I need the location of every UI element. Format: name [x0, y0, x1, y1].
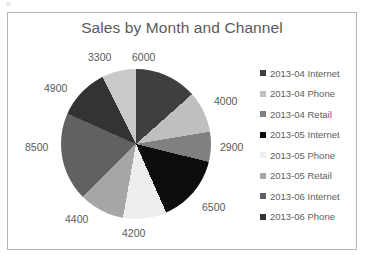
legend-item-label: 2013-05 Retail [270, 171, 332, 181]
plot-area[interactable]: 6000 4000 2900 6500 4200 4400 8500 4900 … [24, 47, 254, 243]
data-label-6500: 6500 [202, 201, 225, 213]
data-label-4400: 4400 [65, 213, 88, 225]
data-label-2900: 2900 [220, 141, 243, 153]
legend-item-label: 2013-05 Internet [270, 130, 340, 140]
legend-swatch-icon [260, 111, 266, 117]
chart-title: Sales by Month and Channel [8, 19, 356, 37]
legend-swatch-icon [260, 214, 266, 220]
data-label-8500: 8500 [25, 141, 48, 153]
legend-item-5[interactable]: 2013-05 Retail [260, 166, 360, 187]
legend-item-label: 2013-04 Phone [270, 89, 335, 99]
data-label-3300: 3300 [88, 51, 111, 63]
data-label-4200: 4200 [122, 227, 145, 239]
legend-swatch-icon [260, 152, 266, 158]
pie-chart[interactable] [61, 69, 211, 219]
legend-swatch-icon [260, 70, 266, 76]
legend-item-label: 2013-05 Phone [270, 151, 335, 161]
legend-item-2[interactable]: 2013-04 Retail [260, 104, 360, 125]
data-label-4900: 4900 [44, 82, 67, 94]
legend-item-1[interactable]: 2013-04 Phone [260, 84, 360, 105]
legend-item-label: 2013-06 Internet [270, 192, 340, 202]
legend-swatch-icon [260, 173, 266, 179]
legend-swatch-icon [260, 132, 266, 138]
chart-legend[interactable]: 2013-04 Internet2013-04 Phone2013-04 Ret… [260, 63, 360, 227]
legend-item-label: 2013-04 Internet [270, 69, 340, 79]
scan-artifact [6, 2, 11, 6]
chart-screenshot: Sales by Month and Channel 6000 4000 290… [0, 0, 366, 259]
legend-swatch-icon [260, 193, 266, 199]
legend-item-7[interactable]: 2013-06 Phone [260, 207, 360, 228]
legend-item-label: 2013-04 Retail [270, 110, 332, 120]
legend-item-6[interactable]: 2013-06 Internet [260, 186, 360, 207]
legend-item-4[interactable]: 2013-05 Phone [260, 145, 360, 166]
data-label-6000: 6000 [132, 51, 155, 63]
legend-item-0[interactable]: 2013-04 Internet [260, 63, 360, 84]
legend-item-label: 2013-06 Phone [270, 212, 335, 222]
legend-item-3[interactable]: 2013-05 Internet [260, 125, 360, 146]
chart-container[interactable]: Sales by Month and Channel 6000 4000 290… [7, 12, 357, 250]
legend-swatch-icon [260, 91, 266, 97]
data-label-4000: 4000 [214, 95, 237, 107]
